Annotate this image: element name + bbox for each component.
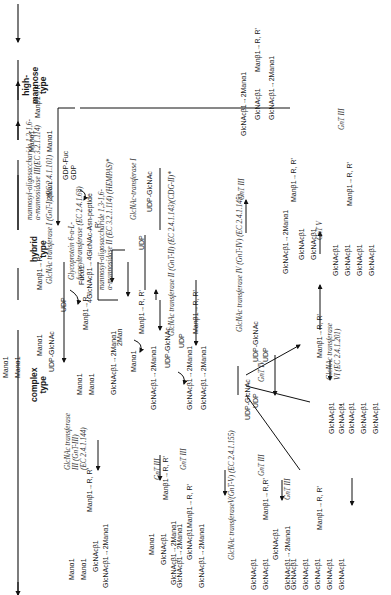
enzyme-gnt-iii-mid: GnT III — [180, 448, 188, 470]
udp-glcnac-label: UDP-GlcNAc — [48, 331, 56, 372]
enzyme-mannosidase-ii-line2: α-mannosidase II (EC 3.2.1.114) (HEMPAS)… — [106, 159, 114, 290]
enzyme-gnt-iii-top: GnT III — [238, 178, 246, 200]
udp-label: UDP — [60, 297, 68, 312]
category-label-complex: complextype — [30, 368, 47, 403]
enzyme-gnt-iii-tri: GnT III — [258, 454, 266, 476]
glycan-s3-a: Manα1 — [76, 373, 84, 395]
glycan-c-top-b: GlcNAcβ1 — [254, 88, 262, 120]
glycan-man5-c: Manα1 — [36, 334, 44, 356]
gdp-fuc-label: GDP-Fuc — [62, 151, 70, 180]
glycan-bis-core: Manβ1→R, R' — [186, 484, 194, 528]
glycan-bottom-d: GlcNAcβ1 — [326, 558, 334, 590]
glycan-s5-b: GlcNAcβ1→2Manα1 — [200, 346, 208, 410]
glycan-pathway-diagram: high-mannosetype hybridtype complextype … — [0, 0, 391, 595]
glycan-h2-a: Manα1 — [148, 533, 156, 555]
glycan-s4-a: Manα1 — [130, 350, 138, 372]
enzyme-gnt-iii-right: GnT III — [338, 108, 346, 130]
enzyme-gnt3-line3: (EC 2.4.1.144) — [80, 427, 88, 470]
glycan-s5-core: Manβ1→R, R' — [192, 290, 200, 334]
enzyme-mannosidase-iii-line1: mannosyl-oligosaccharide 1,3-1,6- — [26, 119, 34, 220]
glycan-bottom-b: GlcNAcβ1 — [302, 558, 310, 590]
glycan-h1-c: GlcNAcβ1 — [92, 540, 100, 572]
udp-glcnac-label-2: UDP-GlcNAc — [146, 171, 154, 212]
glycan-h1-b: Manα1 — [80, 558, 88, 580]
glycan-h1-d: GlcNAcβ1→2Manα1 — [102, 524, 110, 588]
glycan-s7-b: GlcNAcβ1 — [344, 244, 352, 276]
glycan-c3-e: GlcNAcβ1 — [372, 402, 380, 434]
glycan-c-top-core: Manβ1→R, R' — [254, 28, 262, 72]
glycan-bottom-e: GlcNAcβ1 — [338, 558, 346, 590]
glycan-h2-c: GlcNAcβ1→2Manα1 — [170, 521, 178, 585]
glycan-s4-b: GlcNAcβ1→2Manα1 — [150, 346, 158, 410]
glycan-h1-core: Manβ1→R, R' — [86, 468, 94, 512]
glycan-man5-core: Manβ1→R — [36, 256, 44, 290]
glycan-s6-b: GlcNAcβ1 — [298, 228, 306, 260]
udp-label-2: UDP — [138, 235, 146, 250]
glycan-bottom-c: GlcNAcβ1 — [314, 558, 322, 590]
glycan-s7-d: GlcNAcβ1 — [368, 244, 376, 276]
glycan-man5-a: Manα1 — [2, 356, 10, 378]
glycan-h2-b: GlcNAcβ1 — [160, 533, 168, 565]
gdp-label: GDP — [70, 165, 78, 180]
udp-glcnac-label-5: UDP-GlcNAc — [252, 321, 260, 362]
glycan-s8-core: Manβ1→R, R' — [316, 314, 324, 358]
glycan-s5-a: GlcNAcβ1→2Manα1 — [186, 346, 194, 410]
enzyme-gnt-iv-short: GnT IV — [258, 361, 266, 382]
enzyme-gnt6-line2: VI (EC 2.4.1.201) — [334, 329, 342, 380]
enzyme-mannosidase-ii-line1: mannosyl-oligosaccharide 1,3-1,6- — [98, 189, 106, 290]
udp-glcnac-label-4: UDP-GlcNAc — [244, 379, 252, 420]
glycan-bis-b: GlcNAcβ1 — [186, 528, 194, 560]
enzyme-gnt2: GlcNAc transferase II (GnT-II) (EC 2.4.1… — [168, 171, 176, 336]
glycan-man5-b: Manα1 — [14, 356, 22, 378]
label-line: type — [38, 376, 48, 393]
enzyme-fuct-line1: Glycoprotein 6-α-L- — [68, 222, 76, 280]
glycan-h2-core: Manβ1→R, R' — [162, 456, 170, 500]
glycan-h1-a: Manα1 — [68, 558, 76, 580]
glycan-bis-c: GlcNAcβ1→2Manα1 — [198, 524, 206, 588]
glycan-s3-glcnac: 4GlcNAcβ1→4GlcNAc-Asn-peptide — [86, 193, 94, 303]
enzyme-mannosidase-iii-line2: α-mannosidase III(EC 3.2.1.114) — [34, 125, 42, 220]
glycan-s7-a: GlcNAcβ1 — [332, 244, 340, 276]
glycan-s7-c: GlcNAcβ1 — [356, 244, 364, 276]
glycan-tri-b: GlcNAcβ1 — [262, 558, 270, 590]
glycan-s7-core: Manβ1→R, R' — [346, 162, 354, 206]
glycan-s4-core: Manβ1→R, R' — [138, 290, 146, 334]
udp-label-4: UDP — [252, 393, 260, 408]
enzyme-gnt-iii-bottom: GnT III — [284, 478, 292, 500]
glycan-tri-c: GlcNAcβ1 — [272, 528, 280, 560]
glycan-s1-core: Manβ1→R — [34, 84, 42, 118]
glycan-c3-b: GlcNAcβ1 — [338, 402, 346, 434]
glycan-tri-a: GlcNAcβ1 — [250, 558, 258, 590]
enzyme-gnt1: GlcNAc transferase I (GnT-I) (EC 2.4.1.1… — [46, 155, 54, 284]
glycan-tri-core: Manβ1→R,R' — [262, 478, 270, 520]
two-man-label-2: 2Man — [116, 328, 124, 346]
udp-label-3: UDP — [178, 333, 186, 348]
glycan-bottom-core: Manβ1→R, R' — [316, 486, 324, 530]
glycan-tri-d: GlcNAcβ1→2Manα1 — [284, 526, 292, 590]
glycan-c3-a: GlcNAcβ1 — [328, 402, 336, 434]
glycan-c-top-c: GlcNAcβ1→2Manα1 — [268, 56, 276, 120]
enzyme-gnt4: GlcNAc transferase IV (GnT-IV) (EC 2.4.1… — [236, 194, 244, 332]
glycan-c-top-a: GlcNAcβ1→2Manα1 — [240, 72, 248, 136]
enzyme-gnt6-line1: GlcNAc transferase — [326, 323, 334, 380]
glycan-s3-fuc: Fucα1 — [78, 265, 86, 285]
glycan-s3-b: Manα1 — [88, 373, 96, 395]
glycan-s1-branch-b: Manα1 — [46, 130, 54, 152]
enzyme-gnt-v-short: GnT V — [316, 221, 324, 240]
enzyme-gnt1-short: GlcNAc-transferase I — [130, 158, 138, 220]
enzyme-gnt-iii-hybrid: GnT III — [154, 458, 162, 480]
enzyme-gnt5: GlcNAc transferaseV(GnT-V) (EC 2.4.1.155… — [228, 430, 236, 560]
glycan-c3-d: GlcNAcβ1 — [360, 402, 368, 434]
glycan-c3-c: GlcNAcβ1 — [348, 402, 356, 434]
glycan-s6-core: Manβ1→R, R' — [290, 158, 298, 202]
enzyme-gnt3-line2: III (GnT-III) — [72, 434, 80, 470]
glycan-s6-a: GlcNAcβ1→2Manα1 — [282, 210, 290, 274]
enzyme-gnt3-line1: GlcNAc transferase — [64, 413, 72, 470]
